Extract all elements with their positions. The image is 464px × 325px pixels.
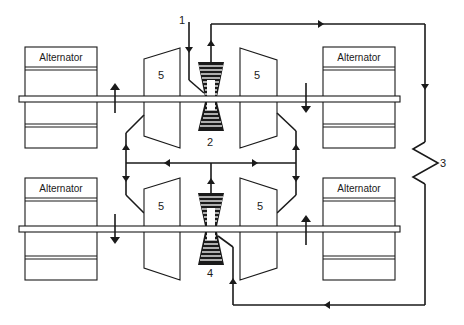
alternator-label: Alternator xyxy=(337,52,381,63)
callout-1: 1 xyxy=(179,14,185,26)
flow-arrow-up-icon xyxy=(229,278,237,284)
shaft-top xyxy=(19,96,400,102)
turbine-label: 5 xyxy=(257,200,263,212)
turbine-label: 5 xyxy=(158,200,164,212)
power-plant-diagram: Alternator Alternator 5 5 xyxy=(0,0,464,325)
turbine-label: 5 xyxy=(254,69,260,81)
flow-arrow-up-icon xyxy=(292,144,300,150)
callout-3: 3 xyxy=(440,157,446,169)
flow-arrow-down-icon xyxy=(185,47,193,53)
shaft-bottom xyxy=(19,226,400,232)
compressor-top: 2 xyxy=(198,62,224,148)
flow-arrow-down-icon xyxy=(421,84,429,90)
inlet-flow: 1 xyxy=(179,14,204,93)
cooler-zigzag xyxy=(413,142,438,184)
flow-arrow-left-icon xyxy=(164,159,170,167)
flow-arrow-right-icon xyxy=(252,159,258,167)
alternator-label: Alternator xyxy=(39,183,83,194)
callout-4: 4 xyxy=(207,267,213,279)
flow-arrow-left-icon xyxy=(324,301,330,309)
flow-arrow-down-icon xyxy=(122,176,130,182)
compressor-bottom: 4 xyxy=(198,193,224,279)
turbine-label: 5 xyxy=(158,69,164,81)
alternator-label: Alternator xyxy=(39,52,83,63)
flow-arrow-right-icon xyxy=(318,20,324,28)
alternator-label: Alternator xyxy=(337,183,381,194)
flow-arrow-down-icon xyxy=(292,176,300,182)
callout-2: 2 xyxy=(207,136,213,148)
flow-arrow-up-icon xyxy=(207,40,215,46)
flow-arrow-up-icon xyxy=(207,178,215,184)
flow-arrow-up-icon xyxy=(122,144,130,150)
